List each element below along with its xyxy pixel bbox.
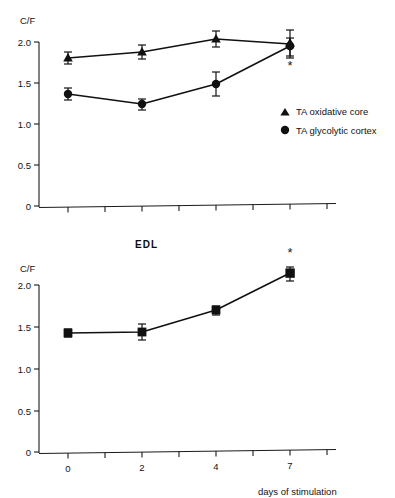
data-point-square-day7 [285,268,294,277]
legend-triangle-icon [280,108,289,116]
figure-root: C/F 2.0 1.5 1.0 0.5 0 [0,0,395,498]
data-point-triangle-day4 [211,34,221,43]
errorbars-glycolytic [64,38,294,110]
data-point-square-day4 [212,306,221,315]
chart-panel-edl: EDL C/F 2.0 1.5 1.0 0.5 0 [0,232,395,498]
legend-circle-icon [281,126,289,134]
x-axis-line-bottom [39,450,336,454]
legend-top: TA oxidative core TA glycolytic cortex [280,106,376,136]
x-tick-label-day-4: 4 [213,461,218,472]
series-line-oxidative [68,39,290,58]
data-point-circle-day2 [138,100,146,108]
data-point-circle-day4 [212,80,220,88]
y-tick-label-2-0: 2.0 [18,37,31,48]
data-point-square-day2 [138,328,147,337]
y-tick-label-1-5: 1.5 [18,78,31,89]
y-axis-title-top: C/F [20,15,36,26]
data-point-circle-day7 [286,42,295,51]
y-tick-label-bottom-1-0: 1.0 [18,364,31,375]
series-ta-oxidative-core [63,30,295,64]
y-tick-label-bottom-1-5: 1.5 [18,322,31,333]
panel-title-edl: EDL [135,239,158,250]
errorbars-edl [64,267,294,340]
y-tick-label-bottom-0-5: 0.5 [18,406,31,417]
data-point-circle-day0 [64,90,72,98]
significance-star-top: * [287,58,292,73]
legend-label-oxidative: TA oxidative core [296,106,368,117]
series-ta-glycolytic-cortex [64,38,295,110]
edl-chart-svg: EDL C/F 2.0 1.5 1.0 0.5 0 [0,232,395,498]
series-edl [64,267,295,340]
ta-chart-svg: C/F 2.0 1.5 1.0 0.5 0 [0,0,395,232]
series-line-edl [68,273,290,333]
errorbars-oxidative [64,30,294,64]
y-ticks-top [34,42,39,206]
chart-panel-ta: C/F 2.0 1.5 1.0 0.5 0 [0,0,395,232]
y-axis-title-bottom: C/F [20,263,36,274]
x-tick-label-day-2: 2 [139,462,144,473]
x-tick-label-day-7: 7 [287,460,292,471]
significance-star-bottom: * [287,245,292,260]
y-tick-label-bottom-0: 0 [26,447,31,458]
data-point-square-day0 [64,329,73,338]
x-axis-title-bottom: days of stimulation [258,486,337,497]
x-axis-line-top [39,204,336,208]
y-tick-label-0: 0 [26,201,31,212]
legend-label-glycolytic: TA glycolytic cortex [296,125,377,136]
x-tick-label-day-0: 0 [65,463,70,474]
y-tick-label-bottom-2-0: 2.0 [18,280,31,291]
y-tick-label-0-5: 0.5 [18,160,31,171]
y-tick-label-1-0: 1.0 [18,119,31,130]
y-ticks-bottom [34,285,39,452]
